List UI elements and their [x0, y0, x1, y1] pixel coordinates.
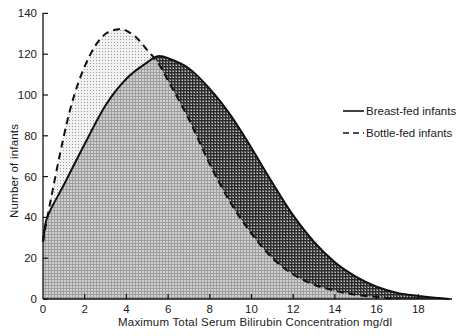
y-axis: 020406080100120140: [18, 7, 48, 305]
legend-item-breast-fed: Breast-fed infants: [343, 105, 456, 117]
x-tick-label: 0: [40, 303, 46, 315]
y-tick-label: 60: [24, 171, 37, 183]
y-tick-label: 100: [18, 89, 37, 101]
legend: Breast-fed infants Bottle-fed infants: [343, 105, 456, 139]
x-tick-label: 18: [412, 303, 425, 315]
x-tick-label: 8: [207, 303, 213, 315]
y-tick-label: 120: [18, 48, 37, 60]
x-tick-label: 2: [81, 303, 87, 315]
plot-fills: [43, 29, 450, 299]
x-tick-label: 16: [370, 303, 383, 315]
legend-label-breast-fed: Breast-fed infants: [366, 105, 456, 117]
x-tick-label: 12: [287, 303, 300, 315]
y-tick-label: 0: [31, 293, 37, 305]
x-tick-label: 14: [329, 303, 342, 315]
x-tick-label: 6: [165, 303, 171, 315]
y-tick-label: 140: [18, 7, 37, 19]
legend-label-bottle-fed: Bottle-fed infants: [366, 127, 453, 139]
x-tick-label: 4: [123, 303, 130, 315]
x-axis-title: Maximum Total Serum Bilirubin Concentrat…: [118, 316, 392, 328]
legend-item-bottle-fed: Bottle-fed infants: [343, 127, 453, 139]
y-tick-label: 20: [24, 252, 37, 264]
x-tick-label: 10: [245, 303, 258, 315]
bilirubin-distribution-chart: 020406080100120140 024681012141618 Maxim…: [0, 0, 475, 336]
y-tick-label: 40: [24, 211, 37, 223]
y-tick-label: 80: [24, 130, 37, 142]
y-axis-title: Number of infants: [8, 124, 20, 218]
